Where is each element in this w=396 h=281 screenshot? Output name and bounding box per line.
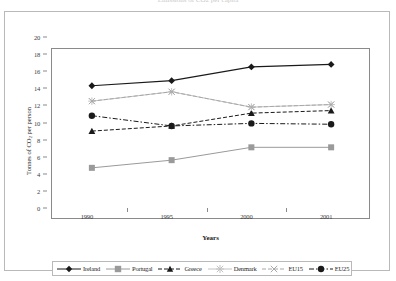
- y-tick-label: 18: [20, 51, 40, 58]
- y-tick-label: 0: [20, 205, 40, 212]
- y-axis-title-tail: per person: [25, 107, 32, 136]
- y-tick-mark: [43, 173, 47, 174]
- legend-item-eu25[interactable]: EU25: [308, 264, 349, 274]
- x-tick-mark: [286, 208, 287, 212]
- y-tick-label: 20: [20, 34, 40, 41]
- x-axis-title: Years: [51, 234, 370, 242]
- y-tick-mark: [43, 54, 47, 55]
- y-tick-mark: [43, 190, 47, 191]
- legend-label: Ireland: [83, 265, 100, 272]
- legend-key-star-icon: [207, 264, 233, 274]
- y-tick-label: 16: [20, 68, 40, 75]
- y-tick-mark: [43, 105, 47, 106]
- top-caption: Emissions of CO2 per capita: [0, 0, 396, 4]
- legend-key-diamond-icon: [56, 264, 82, 274]
- legend-item-greece[interactable]: Greece: [157, 264, 201, 274]
- legend-key-square-icon: [105, 264, 131, 274]
- legend-item-portugal[interactable]: Portugal: [105, 264, 152, 274]
- y-tick-mark: [43, 71, 47, 72]
- y-axis-title-sub: 2: [28, 136, 33, 139]
- y-axis-title: Tonnes of CO2 per person: [25, 81, 33, 201]
- chart-frame: 02468101214161820 Tonnes of CO2 per pers…: [4, 11, 390, 271]
- legend-key-triangle-icon: [157, 264, 183, 274]
- y-tick-mark: [43, 37, 47, 38]
- legend-item-ireland[interactable]: Ireland: [56, 264, 100, 274]
- x-tick-label: 1990: [69, 213, 105, 220]
- legend-item-denmark[interactable]: Denmark: [207, 264, 257, 274]
- y-axis-title-main: Tonnes of CO: [25, 139, 32, 175]
- y-tick-mark: [43, 139, 47, 140]
- legend-key-cross-icon: [261, 264, 287, 274]
- legend-label: Portugal: [132, 265, 152, 272]
- x-tick-mark: [127, 208, 128, 212]
- legend-key-circle-icon: [308, 264, 334, 274]
- legend-label: Denmark: [234, 265, 257, 272]
- x-tick-mark: [207, 208, 208, 212]
- chart-container: Emissions of CO2 per capita 024681012141…: [0, 0, 396, 281]
- legend-label: EU25: [335, 265, 349, 272]
- x-tick-label: 1995: [149, 213, 185, 220]
- chart-legend: IrelandPortugalGreeceDenmarkEU15EU25: [52, 261, 352, 276]
- legend-label: Greece: [184, 265, 201, 272]
- x-tick-label: 2000: [228, 213, 264, 220]
- legend-item-eu15[interactable]: EU15: [261, 264, 302, 274]
- legend-label: EU15: [288, 265, 302, 272]
- y-tick-mark: [43, 208, 47, 209]
- plot-area: [51, 48, 370, 219]
- y-tick-mark: [43, 88, 47, 89]
- x-tick-label: 2001: [308, 213, 344, 220]
- y-tick-mark: [43, 156, 47, 157]
- y-tick-mark: [43, 122, 47, 123]
